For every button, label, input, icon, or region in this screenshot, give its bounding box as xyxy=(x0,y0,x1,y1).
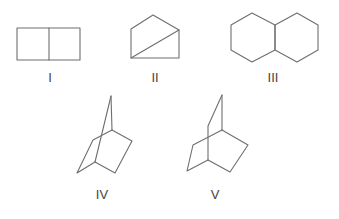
structure-II-outer-ring xyxy=(131,15,179,58)
structure-IV-label: IV xyxy=(96,187,109,202)
bicyclic-structures-diagram: I II III IV V xyxy=(0,0,339,219)
structure-V-label: V xyxy=(211,187,220,202)
structure-V-bridge-left xyxy=(208,95,222,160)
structure-V-right-branch xyxy=(208,130,248,172)
structure-IV-left-branch xyxy=(77,130,112,173)
structure-I: I xyxy=(17,28,80,85)
structure-III-left-ring xyxy=(231,13,275,62)
structure-II-shared-bond xyxy=(131,30,179,58)
structure-IV: IV xyxy=(77,96,132,202)
structure-IV-bridge-right xyxy=(111,96,112,130)
structure-V: V xyxy=(187,95,248,202)
structure-II-label: II xyxy=(151,70,158,85)
structure-III-label: III xyxy=(268,70,279,85)
structure-I-label: I xyxy=(48,70,52,85)
structure-IV-bridge-left xyxy=(95,96,111,162)
structure-II: II xyxy=(131,15,179,85)
structure-III-right-ring xyxy=(275,13,318,62)
structure-III: III xyxy=(231,13,318,85)
